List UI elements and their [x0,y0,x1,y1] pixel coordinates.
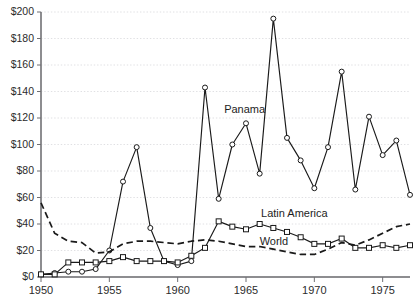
y-axis: $0$20$40$60$80$100$120$140$160$180$200 [11,5,41,282]
data-point [189,253,194,258]
data-point [162,259,167,264]
data-point [121,255,126,260]
y-tick-label: $160 [11,58,35,70]
data-point [408,192,413,197]
data-point [353,187,358,192]
x-tick-label: 1975 [370,284,394,296]
data-point [39,272,44,277]
data-point [121,179,126,184]
data-point [107,259,112,264]
data-point [285,135,290,140]
data-point [216,219,221,224]
chart-container: $0$20$40$60$80$100$120$140$160$180$200 1… [0,0,414,298]
data-point [66,260,71,265]
data-point [230,224,235,229]
data-point [367,245,372,250]
y-tick-label: $80 [16,164,34,176]
data-point [134,145,139,150]
data-point [66,269,71,274]
data-point [298,158,303,163]
data-point [244,121,249,126]
data-point [80,260,85,265]
data-point [394,138,399,143]
series-label-world: World [260,235,289,247]
y-tick-label: $120 [11,111,35,123]
data-series [39,16,413,277]
data-point [380,153,385,158]
data-point [216,196,221,201]
data-point [189,259,194,264]
data-point [52,272,57,277]
y-tick-label: $140 [11,85,35,97]
data-point [80,269,85,274]
data-point [285,229,290,234]
y-tick-label: $40 [16,217,34,229]
data-point [339,236,344,241]
data-point [175,260,180,265]
data-point [326,145,331,150]
data-point [230,142,235,147]
data-point [408,243,413,248]
data-point [203,245,208,250]
data-point [271,225,276,230]
x-tick-label: 1960 [165,284,189,296]
data-point [203,85,208,90]
data-point [257,171,262,176]
data-point [394,245,399,250]
data-point [148,259,153,264]
y-tick-label: $0 [22,270,34,282]
data-point [339,69,344,74]
x-tick-label: 1965 [234,284,258,296]
y-tick-label: $200 [11,5,35,17]
data-point [148,225,153,230]
data-point [134,259,139,264]
x-tick-label: 1950 [29,284,53,296]
x-tick-label: 1955 [97,284,121,296]
data-point [312,186,317,191]
data-point [380,243,385,248]
data-point [298,235,303,240]
x-tick-label: 1970 [302,284,326,296]
data-point [93,260,98,265]
series-label-panama: Panama [224,103,266,115]
data-point [353,245,358,250]
series-annotations: PanamaLatin AmericaWorld [224,103,328,248]
data-point [271,16,276,21]
y-tick-label: $180 [11,32,35,44]
gridlines [41,12,410,251]
series-panama [39,16,413,277]
y-tick-label: $20 [16,244,34,256]
data-point [312,241,317,246]
y-tick-label: $100 [11,138,35,150]
data-point [93,267,98,272]
data-point [367,114,372,119]
data-point [326,241,331,246]
data-point [257,222,262,227]
series-line [41,19,410,275]
series-label-latin-america: Latin America [261,207,329,219]
line-chart: $0$20$40$60$80$100$120$140$160$180$200 1… [0,0,414,298]
data-point [244,227,249,232]
y-tick-label: $60 [16,191,34,203]
x-axis: 195019551960196519701975 [29,277,410,296]
